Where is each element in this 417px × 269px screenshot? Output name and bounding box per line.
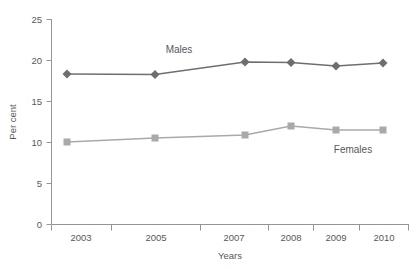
y-tick-label-5: 5 <box>37 178 42 189</box>
y-axis-ticks <box>47 20 52 225</box>
females-point-2008 <box>288 123 295 130</box>
x-tick-label-2010: 2010 <box>373 232 394 243</box>
y-tick-label-20: 20 <box>31 55 42 66</box>
females-markers <box>64 123 387 146</box>
females-point-2009 <box>333 127 340 134</box>
axis-group <box>47 19 410 231</box>
males-point-2003 <box>63 70 72 79</box>
x-tick-label-2008: 2008 <box>280 232 301 243</box>
x-axis-ticks <box>52 225 409 231</box>
males-point-2007 <box>241 58 250 67</box>
series-label-males: Males <box>166 44 193 55</box>
x-axis-tick-labels: 2003 2005 2007 2008 2009 2010 <box>70 232 394 243</box>
males-point-2005 <box>151 70 160 79</box>
x-tick-label-2005: 2005 <box>145 232 166 243</box>
females-point-2005 <box>152 135 159 142</box>
line-chart: 0 5 10 15 20 25 Per cent 2003 2005 2007 … <box>0 0 417 269</box>
y-tick-label-25: 25 <box>31 14 42 25</box>
males-point-2010 <box>379 59 388 68</box>
x-tick-label-2007: 2007 <box>223 232 244 243</box>
chart-canvas: 0 5 10 15 20 25 Per cent 2003 2005 2007 … <box>0 0 417 269</box>
females-point-2007 <box>242 132 249 139</box>
y-axis-title: Per cent <box>7 104 18 140</box>
x-axis-title: Years <box>218 250 242 261</box>
males-point-2009 <box>332 62 341 71</box>
series-males <box>63 58 388 80</box>
series-females <box>64 123 387 146</box>
x-tick-label-2009: 2009 <box>325 232 346 243</box>
series-label-females: Females <box>334 144 372 155</box>
males-markers <box>63 58 388 80</box>
females-point-2010 <box>380 127 387 134</box>
males-point-2008 <box>287 58 296 67</box>
x-tick-label-2003: 2003 <box>70 232 91 243</box>
y-tick-label-0: 0 <box>37 219 42 230</box>
y-tick-label-15: 15 <box>31 96 42 107</box>
females-point-2003 <box>64 139 71 146</box>
y-axis-tick-labels: 0 5 10 15 20 25 <box>31 14 42 230</box>
y-tick-label-10: 10 <box>31 137 42 148</box>
